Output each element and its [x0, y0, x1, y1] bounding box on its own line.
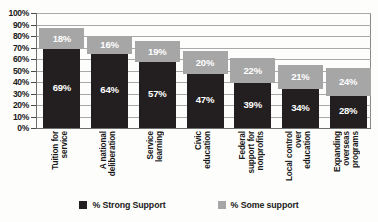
- bar-value-label: 57%: [148, 89, 166, 99]
- bar-value-label: 24%: [339, 77, 357, 87]
- x-axis-category-label: Civiceducation: [179, 131, 227, 193]
- bar-value-label: 19%: [148, 47, 166, 57]
- x-axis-category-label-line: Federal: [237, 131, 246, 159]
- bar-segment-some-support[interactable]: 21%: [278, 65, 323, 89]
- bar-group[interactable]: 34%21%: [282, 13, 319, 128]
- x-axis-category-label-line: programs: [351, 131, 360, 168]
- x-axis-category-label-lines: Servicelearning: [146, 131, 164, 193]
- x-axis-category-label: A nationaldeliberation: [84, 131, 132, 193]
- x-axis-category-label-line: learning: [155, 131, 164, 162]
- bar-series-container: 69%18%64%16%57%19%47%20%39%22%34%21%28%2…: [37, 13, 371, 128]
- bar-group[interactable]: 39%22%: [234, 13, 271, 128]
- x-axis-category-label-line: service: [60, 131, 69, 159]
- x-axis-category-label-line: overseas: [342, 131, 351, 166]
- y-axis-tick-label: 30%: [13, 89, 29, 99]
- bar-value-label: 22%: [243, 66, 261, 76]
- bar-value-label: 39%: [243, 100, 261, 110]
- x-axis-category-label-line: Tuition for: [51, 131, 60, 170]
- x-axis-category-label-lines: Expandingoverseasprograms: [333, 131, 360, 193]
- bar-segment-strong-support[interactable]: 28%: [330, 96, 367, 128]
- x-axis-category-label-lines: Civiceducation: [194, 131, 212, 193]
- bar-segment-some-support[interactable]: 19%: [135, 41, 180, 63]
- plot-area: 69%18%64%16%57%19%47%20%39%22%34%21%28%2…: [36, 13, 371, 129]
- bar-value-label: 21%: [291, 72, 309, 82]
- bar-value-label: 64%: [100, 85, 118, 95]
- x-axis-category-label-line: Expanding: [333, 131, 342, 172]
- y-axis-tick-label: 10%: [13, 112, 29, 122]
- bar-value-label: 16%: [100, 40, 118, 50]
- y-axis-tick-label: 60%: [13, 54, 29, 64]
- bar-segment-strong-support[interactable]: 39%: [234, 83, 271, 128]
- legend-swatch-some-support: [218, 201, 226, 209]
- x-axis-category-label: Expandingoverseasprograms: [322, 131, 370, 193]
- x-axis-category-label-line: deliberation: [108, 131, 117, 176]
- x-axis-category-label: Local controlovereducation: [275, 131, 323, 193]
- legend-swatch-strong-support: [79, 201, 87, 209]
- x-axis-category-label: Federalsupport fornonprofits: [227, 131, 275, 193]
- x-axis-category-label-line: education: [203, 131, 212, 169]
- x-axis-category-label-line: support for: [246, 131, 255, 174]
- bar-value-label: 18%: [53, 34, 71, 44]
- x-axis-category-label-line: education: [303, 131, 312, 169]
- bar-value-label: 47%: [196, 95, 214, 105]
- y-axis-tick-label: 20%: [13, 100, 29, 110]
- x-axis-category-label-lines: Local controlovereducation: [285, 131, 312, 193]
- bar-segment-some-support[interactable]: 18%: [39, 28, 84, 49]
- bar-segment-strong-support[interactable]: 47%: [187, 74, 224, 128]
- x-axis-category-label: Servicelearning: [131, 131, 179, 193]
- legend-label: % Strong Support: [92, 201, 165, 210]
- bar-segment-some-support[interactable]: 22%: [230, 58, 275, 83]
- legend-item[interactable]: % Strong Support: [79, 201, 165, 210]
- x-axis-category-label: Tuition forservice: [36, 131, 84, 193]
- bar-value-label: 20%: [196, 58, 214, 68]
- bar-segment-strong-support[interactable]: 69%: [43, 49, 80, 128]
- y-axis-tick-label: 50%: [13, 66, 29, 76]
- x-axis-category-label-lines: Federalsupport fornonprofits: [237, 131, 264, 193]
- y-axis-tick-label: 70%: [13, 43, 29, 53]
- bar-group[interactable]: 64%16%: [91, 13, 128, 128]
- bar-group[interactable]: 28%24%: [330, 13, 367, 128]
- bar-segment-some-support[interactable]: 16%: [87, 36, 132, 54]
- y-axis-tick-label: 40%: [13, 77, 29, 87]
- bar-value-label: 69%: [53, 83, 71, 93]
- bar-segment-strong-support[interactable]: 34%: [282, 89, 319, 128]
- bar-segment-some-support[interactable]: 24%: [326, 68, 371, 96]
- x-axis-category-label-lines: A nationaldeliberation: [99, 131, 117, 193]
- legend-label: % Some support: [231, 201, 299, 210]
- bar-segment-some-support[interactable]: 20%: [183, 51, 228, 74]
- x-axis-category-label-lines: Tuition forservice: [51, 131, 69, 193]
- x-axis-category-label-line: Service: [146, 131, 155, 159]
- x-axis-category-labels: Tuition forserviceA nationaldeliberation…: [36, 131, 370, 193]
- bar-value-label: 34%: [291, 103, 309, 113]
- bar-segment-strong-support[interactable]: 57%: [139, 62, 176, 128]
- bar-group[interactable]: 47%20%: [187, 13, 224, 128]
- y-axis-tick-label: 100%: [8, 8, 29, 18]
- chart-legend: % Strong Support% Some support: [0, 198, 378, 212]
- bar-segment-strong-support[interactable]: 64%: [91, 54, 128, 128]
- x-axis-category-label-line: A national: [99, 131, 108, 169]
- y-axis-tick-label: 80%: [13, 31, 29, 41]
- x-axis-category-label-line: Civic: [194, 131, 203, 150]
- bar-value-label: 28%: [339, 106, 357, 116]
- bar-group[interactable]: 69%18%: [43, 13, 80, 128]
- y-axis-tick-label: 90%: [13, 20, 29, 30]
- y-axis-tick-label: 0%: [17, 123, 29, 133]
- legend-item[interactable]: % Some support: [218, 201, 299, 210]
- bar-chart: 100%90%80%70%60%50%40%30%20%10%0% 69%18%…: [0, 0, 378, 222]
- y-axis: 100%90%80%70%60%50%40%30%20%10%0%: [0, 8, 36, 132]
- x-axis-category-label-line: nonprofits: [255, 131, 264, 170]
- bar-group[interactable]: 57%19%: [139, 13, 176, 128]
